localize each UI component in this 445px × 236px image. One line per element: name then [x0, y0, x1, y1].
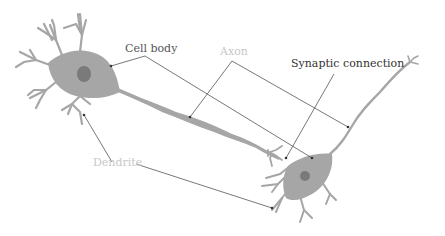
- dendrite-leader-upper: [84, 115, 112, 162]
- dendrite-label: Dendrite: [93, 156, 142, 169]
- left-neuron: [16, 14, 282, 166]
- cell-body-leader-right: [145, 56, 312, 158]
- cell-body-label: Cell body: [125, 42, 178, 55]
- axon-leader-right: [232, 61, 348, 127]
- dendrite-leader-lower: [136, 164, 272, 208]
- axon-label: Axon: [219, 45, 248, 58]
- right-axon: [330, 62, 410, 154]
- left-nucleus-icon: [77, 66, 91, 82]
- cell-body-leader-left: [111, 56, 145, 66]
- synaptic-leader: [286, 74, 334, 158]
- axon-leader-left: [190, 61, 232, 117]
- neuron-diagram: Cell body Axon Synaptic connection Dendr…: [0, 0, 445, 236]
- synaptic-connection-label: Synaptic connection: [291, 57, 404, 70]
- right-nucleus-icon: [300, 171, 310, 181]
- right-neuron: [262, 56, 418, 222]
